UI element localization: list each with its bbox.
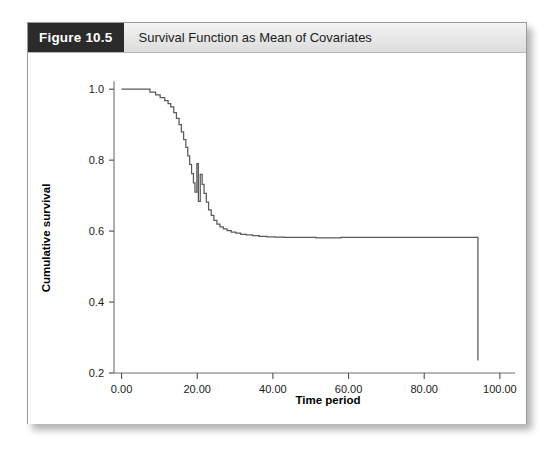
figure-number-label: Figure 10.5 [28, 23, 124, 52]
x-tick-label: 0.00 [111, 383, 132, 395]
x-tick-label: 80.00 [410, 383, 438, 395]
axes-group [114, 81, 515, 373]
y-tick-label: 1.0 [89, 83, 104, 95]
y-tick-label: 0.4 [89, 296, 104, 308]
x-axis-ticks: 0.0020.0040.0060.0080.00100.00 [111, 373, 517, 395]
figure-card: Figure 10.5 Survival Function as Mean of… [27, 22, 527, 424]
y-tick-label: 0.6 [89, 225, 104, 237]
x-tick-label: 20.00 [183, 383, 211, 395]
survival-curve [122, 89, 478, 360]
x-tick-label: 40.00 [259, 383, 287, 395]
y-axis-title: Cumulative survival [40, 184, 52, 293]
y-tick-label: 0.2 [89, 367, 104, 379]
y-tick-label: 0.8 [89, 154, 104, 166]
figure-header: Figure 10.5 Survival Function as Mean of… [28, 23, 526, 53]
survival-chart: 0.20.40.60.81.0 0.0020.0040.0060.0080.00… [28, 53, 528, 424]
y-axis-ticks: 0.20.40.60.81.0 [89, 83, 114, 379]
figure-title: Survival Function as Mean of Covariates [124, 23, 371, 52]
x-axis-title: Time period [296, 394, 361, 406]
plot-area: 0.20.40.60.81.0 0.0020.0040.0060.0080.00… [28, 53, 526, 424]
x-tick-label: 100.00 [483, 383, 517, 395]
